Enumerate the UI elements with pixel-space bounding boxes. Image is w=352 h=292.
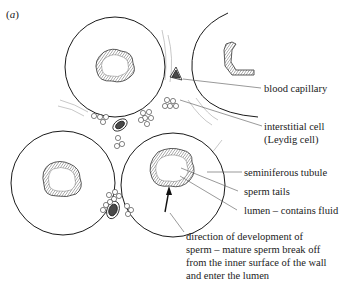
label-direction-line2: sperm – mature sperm break off [186,243,320,256]
label-blood-capillary: blood capillary [264,82,327,95]
tubule-upper [65,17,165,117]
label-seminiferous-tubule: seminiferous tubule [244,166,327,179]
label-lumen: lumen – contains fluid [244,204,338,217]
label-interstitial-cell: interstitial cell [264,120,324,133]
label-sperm-tails: sperm tails [244,185,290,198]
tubule-center [121,133,225,237]
tubule-left [11,131,115,235]
label-direction-line1: direction of development of [186,230,303,243]
label-leydig-cell: (Leydig cell) [264,133,319,146]
panel-label: (a) [6,8,19,20]
label-direction-line4: and enter the lumen [186,269,269,282]
tubule-right-partial [192,13,258,117]
label-direction-line3: from the inner surface of the wall [186,256,327,269]
